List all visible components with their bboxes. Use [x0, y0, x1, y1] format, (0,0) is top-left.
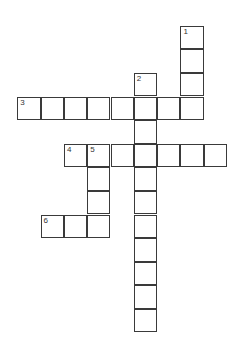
crossword-cell[interactable] — [134, 309, 157, 333]
crossword-cell[interactable] — [180, 73, 203, 97]
crossword-cell[interactable] — [87, 215, 110, 239]
crossword-cell[interactable] — [64, 215, 87, 239]
clue-number: 5 — [90, 145, 94, 154]
clue-number: 1 — [183, 27, 187, 36]
clue-number: 2 — [137, 74, 141, 83]
clue-number: 3 — [20, 98, 24, 107]
crossword-cell[interactable] — [87, 191, 110, 215]
clue-number: 4 — [67, 145, 71, 154]
crossword-cell[interactable]: 4 — [64, 144, 87, 168]
crossword-cell[interactable] — [134, 191, 157, 215]
crossword-cell[interactable] — [180, 97, 203, 121]
crossword-cell[interactable]: 5 — [87, 144, 110, 168]
crossword-cell[interactable] — [87, 167, 110, 191]
crossword-cell[interactable] — [41, 97, 64, 121]
crossword-cell[interactable] — [204, 144, 227, 168]
crossword-cell[interactable]: 3 — [17, 97, 40, 121]
crossword-cell[interactable] — [64, 97, 87, 121]
crossword-cell[interactable]: 2 — [134, 73, 157, 97]
crossword-cell[interactable] — [134, 120, 157, 144]
crossword-cell[interactable] — [134, 167, 157, 191]
crossword-cell[interactable] — [111, 144, 134, 168]
crossword-cell[interactable] — [111, 97, 134, 121]
crossword-cell[interactable] — [180, 49, 203, 73]
crossword-cell[interactable] — [157, 97, 180, 121]
crossword-cell[interactable]: 6 — [41, 215, 64, 239]
crossword-cell[interactable]: 1 — [180, 26, 203, 50]
crossword-cell[interactable] — [134, 144, 157, 168]
crossword-grid: 123456 — [0, 0, 237, 356]
crossword-cell[interactable] — [134, 262, 157, 286]
crossword-cell[interactable] — [134, 215, 157, 239]
crossword-cell[interactable] — [134, 285, 157, 309]
crossword-cell[interactable] — [87, 97, 110, 121]
clue-number: 6 — [44, 216, 48, 225]
crossword-cell[interactable] — [134, 238, 157, 262]
crossword-cell[interactable] — [157, 144, 180, 168]
crossword-cell[interactable] — [180, 144, 203, 168]
crossword-cell[interactable] — [134, 97, 157, 121]
